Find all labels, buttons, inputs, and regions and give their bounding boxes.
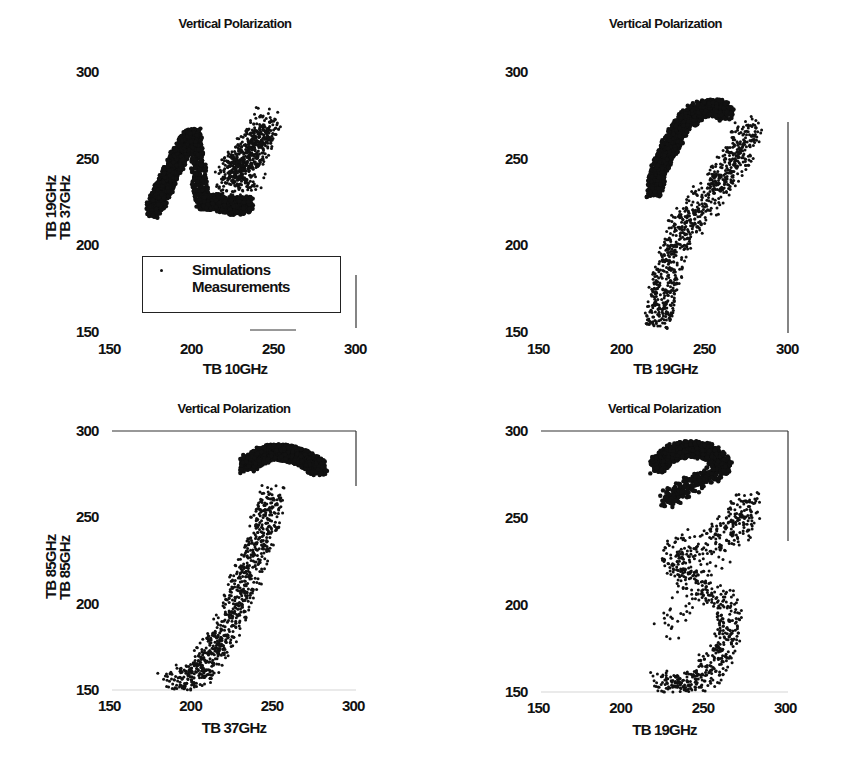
plot-area: [0, 0, 855, 775]
